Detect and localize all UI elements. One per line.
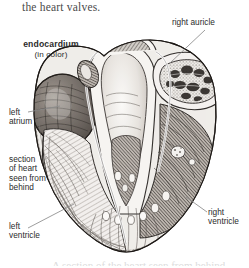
label-endocardium-title: endocardium [23,39,79,49]
label-endocardium-subtitle: (in color) [13,50,89,59]
figure-page: the heart valves. [0,0,249,268]
label-right-auricle: right auricle [172,18,215,27]
label-right-ventricle: right ventricle [208,208,239,227]
label-section-of-heart: section of heart seen from behind [9,155,46,193]
label-endocardium: endocardium (in color) [13,31,89,69]
label-left-atrium: left atrium [9,108,32,127]
bottom-bleed-text: A section of the heart seen from behind [52,259,225,266]
label-left-ventricle: left ventricle [9,222,40,241]
